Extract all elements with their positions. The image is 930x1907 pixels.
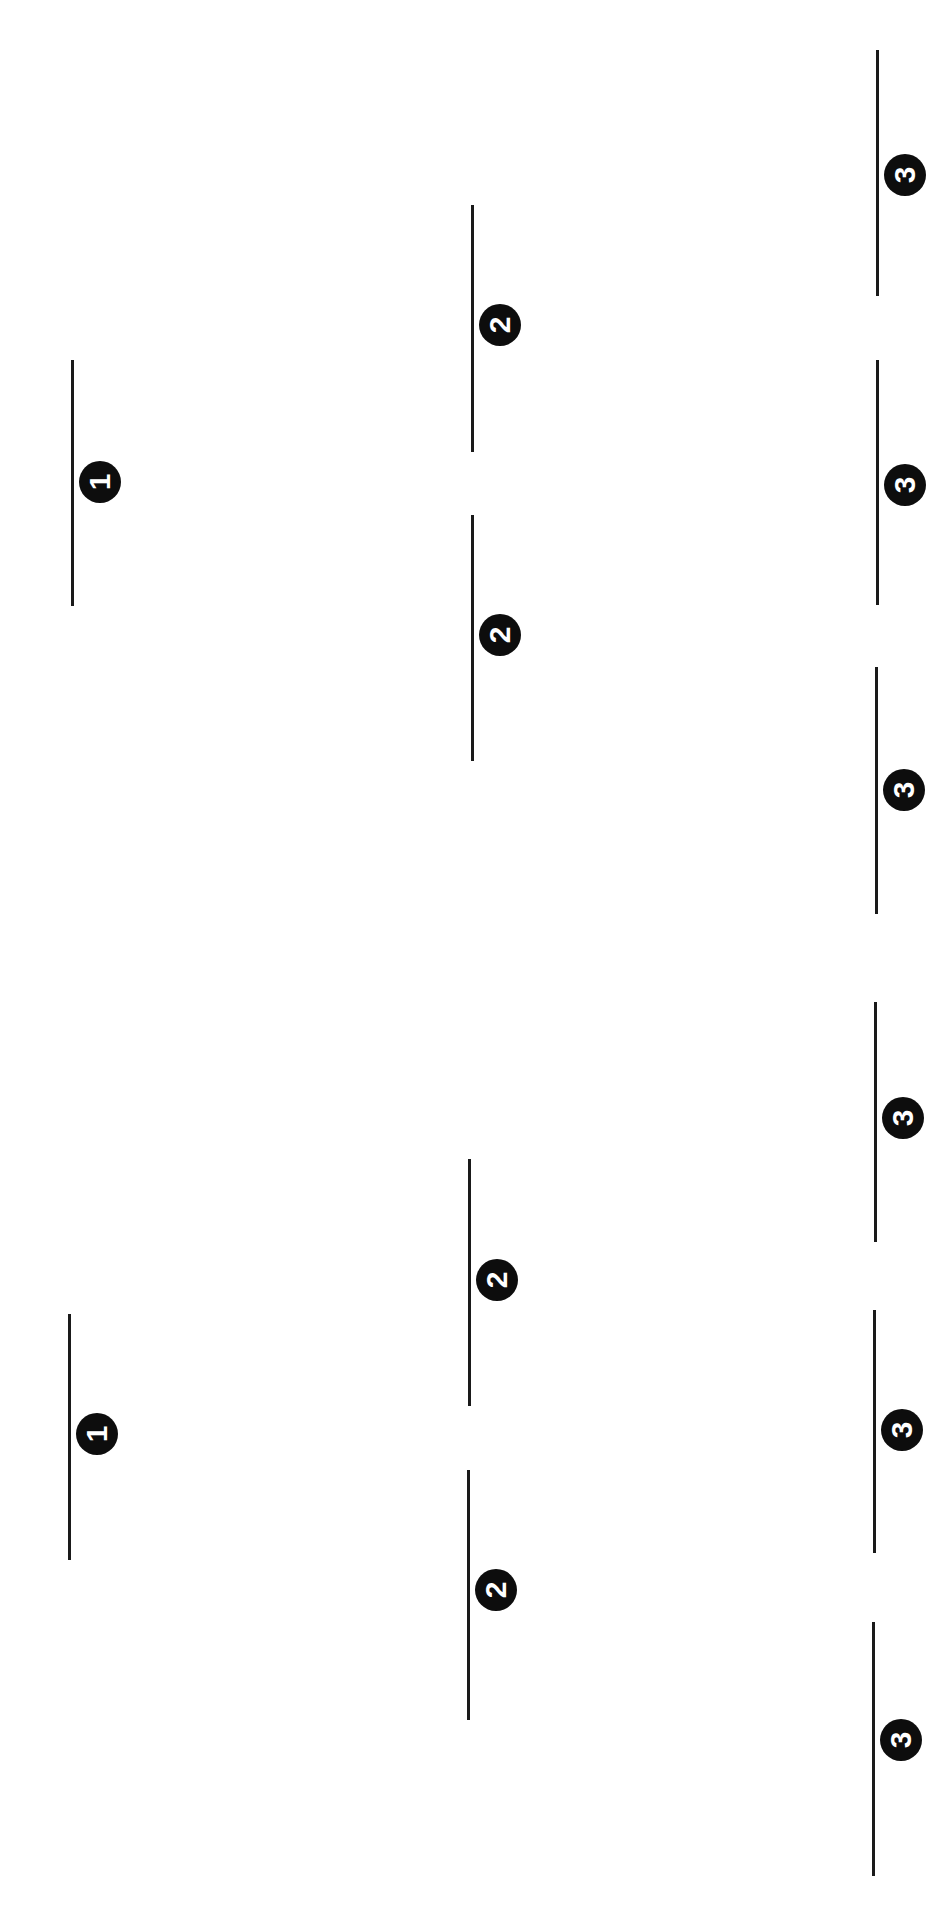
bracket-line <box>467 1470 470 1720</box>
bracket-line <box>872 1622 875 1876</box>
round-3-badge-icon: 3 <box>881 1409 923 1451</box>
round-2-badge-icon: 2 <box>479 304 521 346</box>
bracket-line <box>468 1159 471 1406</box>
round-2-badge-icon: 2 <box>479 614 521 656</box>
bracket-line <box>873 1310 876 1553</box>
round-2-slot: 2 <box>467 1470 537 1720</box>
round-number: 3 <box>889 782 919 799</box>
round-3-badge-icon: 3 <box>882 1097 924 1139</box>
round-number: 2 <box>481 1582 511 1599</box>
bracket-line <box>875 667 878 914</box>
round-1-slot: 1 <box>68 1314 138 1560</box>
bracket-line <box>876 360 879 605</box>
bracket-line <box>471 205 474 452</box>
round-3-slot: 3 <box>874 1002 930 1242</box>
round-2-badge-icon: 2 <box>476 1259 518 1301</box>
bracket-line <box>68 1314 71 1560</box>
round-3-badge-icon: 3 <box>884 464 926 506</box>
round-number: 3 <box>886 1732 916 1749</box>
round-number: 3 <box>890 477 920 494</box>
round-number: 3 <box>887 1422 917 1439</box>
round-3-slot: 3 <box>875 667 930 914</box>
round-number: 1 <box>82 1426 112 1443</box>
round-2-slot: 2 <box>471 205 541 452</box>
round-number: 2 <box>485 317 515 334</box>
round-3-slot: 3 <box>876 50 930 296</box>
round-3-slot: 3 <box>872 1622 930 1876</box>
round-1-badge-icon: 1 <box>79 461 121 503</box>
round-3-slot: 3 <box>873 1310 930 1553</box>
round-3-badge-icon: 3 <box>880 1719 922 1761</box>
round-3-badge-icon: 3 <box>883 769 925 811</box>
round-number: 1 <box>85 474 115 491</box>
round-2-badge-icon: 2 <box>475 1569 517 1611</box>
round-3-badge-icon: 3 <box>884 154 926 196</box>
bracket-line <box>471 515 474 761</box>
round-2-slot: 2 <box>471 515 541 761</box>
round-3-slot: 3 <box>876 360 930 605</box>
bracket-line <box>71 360 74 606</box>
bracket-line <box>876 50 879 296</box>
round-number: 3 <box>888 1110 918 1127</box>
bracket-line <box>874 1002 877 1242</box>
round-1-badge-icon: 1 <box>76 1413 118 1455</box>
round-1-slot: 1 <box>71 360 141 606</box>
round-number: 2 <box>485 627 515 644</box>
round-2-slot: 2 <box>468 1159 538 1406</box>
round-number: 3 <box>890 167 920 184</box>
round-number: 2 <box>482 1272 512 1289</box>
